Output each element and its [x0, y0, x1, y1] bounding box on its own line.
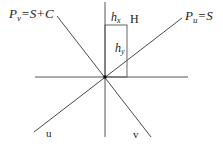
pu-u-line — [34, 18, 182, 132]
hy-label: hy — [115, 41, 125, 56]
hx-label: hx — [111, 10, 121, 25]
pv-label: Pv=S+C — [8, 6, 54, 23]
vector-diagram: Pv=S+C Pu=S hx H hy u v — [0, 0, 223, 148]
v-label: v — [133, 128, 139, 140]
origin-point — [103, 75, 107, 79]
pu-label: Pu=S — [184, 8, 213, 25]
u-label: u — [46, 127, 52, 139]
h-label: H — [130, 12, 139, 26]
